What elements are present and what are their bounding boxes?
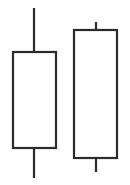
candle-2-body [74,30,117,158]
candle-1-body [13,52,56,148]
candlestick-chart [0,0,130,185]
candlestick-svg [0,0,130,185]
candle-2 [74,22,117,172]
